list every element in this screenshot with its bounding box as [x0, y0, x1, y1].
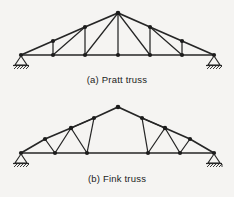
- fink-truss-caption: (b) Fink truss: [0, 173, 234, 184]
- fink-joints: [19, 105, 216, 155]
- fink-truss-diagram: [0, 98, 234, 172]
- pratt-right-support: [206, 56, 222, 69]
- pratt-truss-caption: (a) Pratt truss: [0, 74, 234, 85]
- pratt-left-support: [13, 56, 29, 69]
- fink-left-support: [13, 154, 29, 167]
- fink-right-support: [206, 154, 222, 167]
- truss-figure: (a) Pratt truss: [0, 0, 234, 197]
- pratt-truss-diagram: [0, 0, 234, 74]
- pratt-vertical-members: [53, 13, 182, 55]
